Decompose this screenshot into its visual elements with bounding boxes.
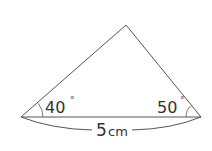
degree-symbol-right: °: [180, 95, 185, 105]
angle-label-left: 40: [45, 98, 65, 117]
base-length-unit: cm: [108, 124, 128, 139]
base-length-value: 5: [96, 120, 107, 140]
base-brace-left: [21, 117, 92, 130]
angle-arc-right: [186, 105, 191, 117]
triangle-diagram: 40 ° 50 ° 5 cm: [0, 0, 212, 151]
angle-arc-left: [38, 103, 43, 117]
angle-label-right: 50: [157, 98, 177, 117]
base-brace-right: [132, 117, 201, 130]
degree-symbol-left: °: [70, 95, 75, 105]
